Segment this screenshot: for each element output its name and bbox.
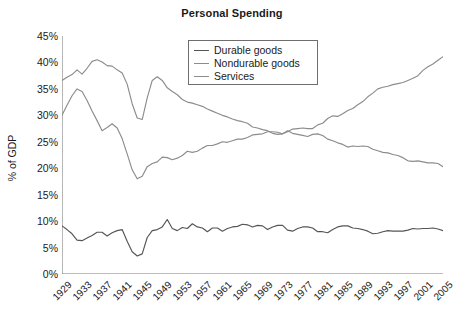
legend-swatch-line-icon (194, 63, 209, 64)
legend-item[interactable]: Services (194, 70, 317, 83)
chart-container: Personal Spending % of GDP 45%40%35%30%2… (0, 0, 464, 326)
chart-legend: Durable goodsNondurable goodsServices (188, 40, 318, 85)
legend-swatch-line-icon (194, 50, 209, 51)
legend-item[interactable]: Durable goods (194, 44, 317, 57)
legend-item[interactable]: Nondurable goods (194, 57, 317, 70)
legend-label: Services (214, 70, 254, 83)
legend-swatch-line-icon (194, 76, 209, 77)
legend-label: Durable goods (214, 44, 282, 57)
legend-label: Nondurable goods (214, 57, 300, 70)
